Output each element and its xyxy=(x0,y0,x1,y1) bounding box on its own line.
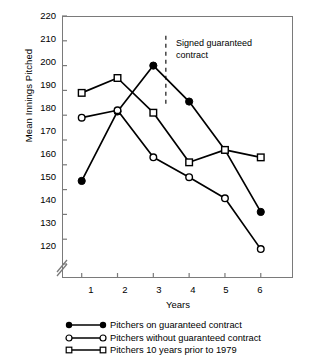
data-point-open-square xyxy=(114,75,121,82)
series-layer xyxy=(78,62,264,252)
data-point-open-circle xyxy=(222,195,229,202)
x-tick-marks xyxy=(82,273,261,278)
data-point-filled-circle xyxy=(186,98,193,105)
chart-figure: Mean Innings Pitched 220 210 200 190 180… xyxy=(0,0,309,364)
data-point-filled-circle xyxy=(78,177,85,184)
legend-item: Pitchers 10 years prior to 1979 xyxy=(64,344,309,357)
data-point-open-square xyxy=(222,147,229,154)
legend-item: Pitchers on guaranteed contract xyxy=(64,319,309,332)
axis-break-icon xyxy=(57,260,67,276)
legend-label: Pitchers without guaranteed contract xyxy=(110,333,261,343)
data-point-open-circle xyxy=(114,107,121,114)
plot-area xyxy=(0,0,309,364)
legend-marker-open-circle xyxy=(64,332,108,344)
legend: Pitchers on guaranteed contract Pitchers… xyxy=(64,319,309,357)
y-tick-marks xyxy=(62,16,67,264)
data-point-filled-circle xyxy=(150,62,157,69)
data-point-open-circle xyxy=(150,154,157,161)
series-line xyxy=(82,78,261,162)
legend-marker-open-square xyxy=(64,344,108,356)
data-point-filled-circle xyxy=(257,208,264,215)
legend-label: Pitchers 10 years prior to 1979 xyxy=(110,345,237,355)
legend-marker-filled-circle xyxy=(64,319,108,331)
data-point-open-square xyxy=(150,109,157,116)
data-point-open-circle xyxy=(257,246,264,253)
series-line xyxy=(82,110,261,249)
data-point-open-circle xyxy=(186,174,193,181)
data-point-open-square xyxy=(257,154,264,161)
legend-label: Pitchers on guaranteed contract xyxy=(110,320,242,330)
data-point-open-square xyxy=(78,90,85,97)
data-point-open-square xyxy=(186,159,193,166)
data-point-open-circle xyxy=(78,114,85,121)
legend-item: Pitchers without guaranteed contract xyxy=(64,332,309,345)
